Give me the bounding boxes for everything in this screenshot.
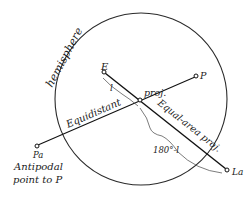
point-la-marker [225, 168, 229, 172]
label-equidistant: Equidistant [63, 96, 123, 130]
label-antipodal-line2: point to P [13, 174, 62, 185]
label-antipodal-line1: Antipodal [13, 161, 63, 172]
label-p: P [199, 70, 207, 81]
label-hemisphere: hemisphere [43, 25, 86, 89]
label-180-minus-l: 180°-l [153, 145, 179, 155]
label-e: E [100, 61, 109, 72]
label-l: l [110, 83, 113, 93]
point-center-marker [138, 98, 142, 102]
point-pa-marker [35, 144, 39, 148]
label-la: La [231, 167, 243, 177]
label-pa: Pa [32, 150, 43, 160]
point-p-marker [194, 74, 198, 78]
projection-diagram: hemisphere E l proj. P Equidistant Equal… [0, 0, 252, 198]
